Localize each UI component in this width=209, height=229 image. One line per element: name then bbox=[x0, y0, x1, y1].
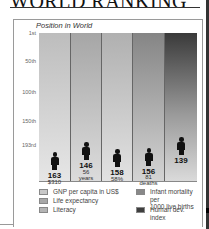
y-tick-label: 150th bbox=[14, 118, 36, 124]
rank-detail: 58% bbox=[102, 176, 132, 183]
legend-swatch bbox=[136, 207, 145, 213]
chart-legend: GNP per capita in US$ Life expectancy Li… bbox=[24, 188, 199, 222]
person-icon bbox=[144, 148, 154, 166]
y-tick-label: 1st bbox=[14, 30, 36, 36]
legend-label: GNP per capita in US$ bbox=[53, 188, 119, 196]
person-icon bbox=[112, 149, 122, 167]
legend-swatch bbox=[39, 189, 48, 195]
legend-label: Life expectancy bbox=[53, 197, 98, 205]
y-tick-label: 100th bbox=[14, 89, 36, 95]
legend-item-human-dev-index: Human dev. index bbox=[136, 206, 199, 221]
bottom-rule bbox=[0, 224, 14, 225]
legend-item-literacy: Literacy bbox=[39, 206, 76, 214]
bar-human-dev-index: 139 bbox=[165, 33, 197, 181]
legend-label: Literacy bbox=[53, 206, 76, 214]
bar-literacy: 158 58% bbox=[102, 33, 133, 181]
chart-panel: Position in World 1st 50th 100th 150th 1… bbox=[13, 19, 203, 227]
page-edge bbox=[206, 0, 209, 229]
bar-infant-mortality: 156 81 deaths bbox=[133, 33, 165, 181]
chart-title: Position in World bbox=[36, 21, 92, 30]
bar-life-expectancy: 146 56 years bbox=[71, 33, 102, 181]
rank-detail: $310 bbox=[39, 179, 70, 186]
person-icon bbox=[50, 152, 60, 170]
plot-area: 163 $310 146 56 years 158 58% 156 81 dea… bbox=[39, 33, 197, 182]
legend-label: Human dev. index bbox=[150, 206, 199, 221]
legend-item-gnp: GNP per capita in US$ bbox=[39, 188, 119, 196]
y-tick-label: 50th bbox=[14, 58, 36, 64]
legend-swatch bbox=[39, 198, 48, 204]
person-icon bbox=[176, 137, 186, 155]
legend-item-life-expectancy: Life expectancy bbox=[39, 197, 98, 205]
legend-swatch bbox=[136, 189, 145, 195]
legend-label: Infant mortality per bbox=[150, 188, 199, 203]
y-tick-label: 193rd bbox=[14, 142, 36, 148]
edge-marker bbox=[206, 208, 209, 213]
rank-detail-unit: deaths bbox=[133, 180, 164, 187]
bar-gnp: 163 $310 bbox=[39, 33, 71, 181]
person-icon bbox=[81, 142, 91, 160]
rank-value: 139 bbox=[165, 157, 197, 165]
page-title: WORLD RANKING bbox=[10, 0, 187, 11]
legend-swatch bbox=[39, 207, 48, 213]
rank-detail-unit: years bbox=[71, 175, 101, 182]
title-rule bbox=[10, 7, 200, 8]
